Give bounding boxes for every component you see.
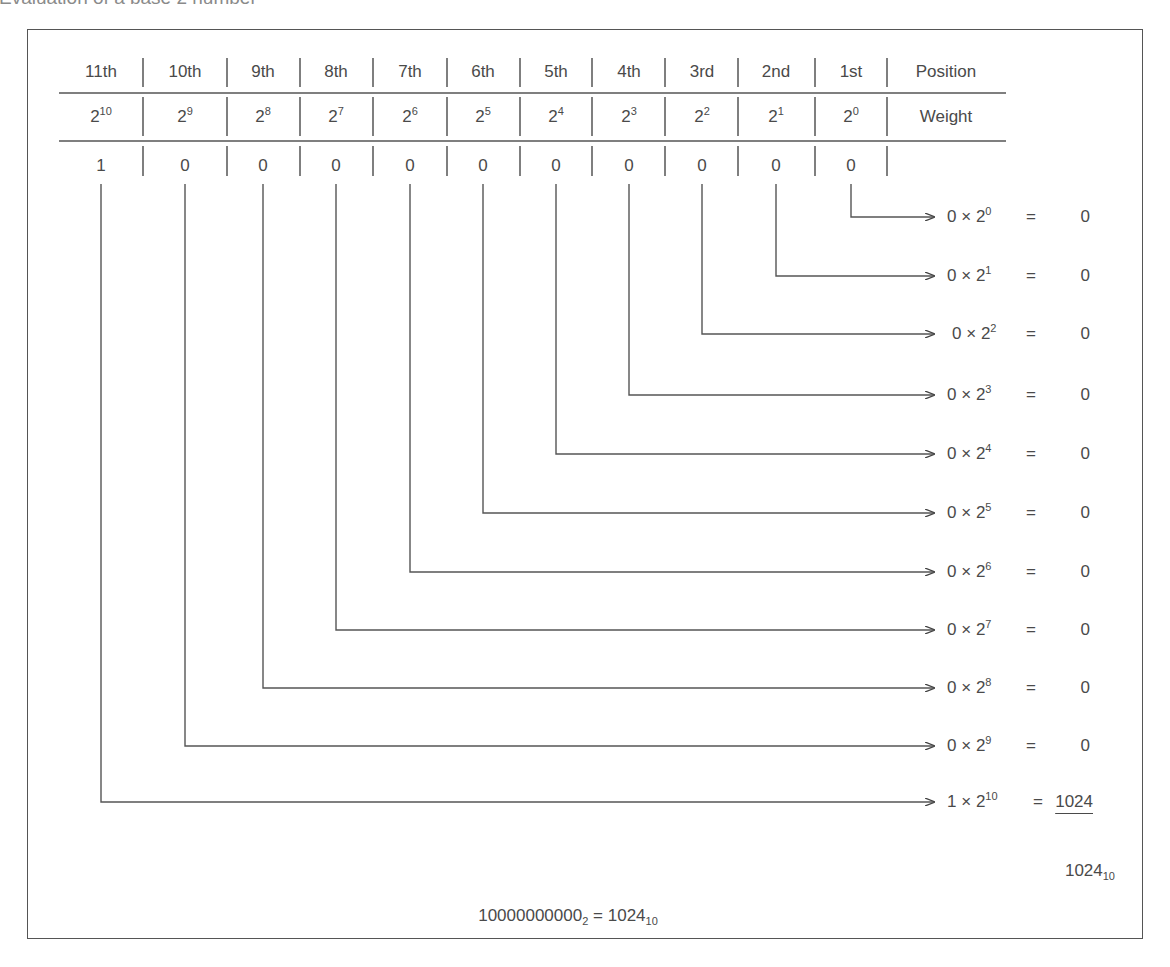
- product-term: 0 × 20: [947, 207, 991, 227]
- bit-value: 1: [96, 156, 105, 176]
- product-result-total: 1024: [1055, 792, 1093, 812]
- product-result: 0: [1081, 207, 1090, 227]
- position-label: 1st: [840, 62, 863, 82]
- product-term: 0 × 26: [947, 562, 991, 582]
- bit-value: 0: [624, 156, 633, 176]
- position-label: 9th: [251, 62, 275, 82]
- product-result: 0: [1081, 266, 1090, 286]
- weight-label: 27: [328, 107, 344, 127]
- equals-sign: =: [1026, 385, 1036, 405]
- position-label: 11th: [85, 62, 117, 82]
- weight-label: 26: [402, 107, 418, 127]
- weight-label: 210: [90, 107, 112, 127]
- product-term: 0 × 23: [947, 385, 991, 405]
- product-term: 0 × 29: [947, 736, 991, 756]
- product-term: 1 × 210: [947, 792, 998, 812]
- weight-label: 22: [694, 107, 710, 127]
- position-label: 3rd: [690, 62, 715, 82]
- weight-label: 21: [768, 107, 784, 127]
- equals-sign: =: [1026, 207, 1036, 227]
- conclusion-equation: 100000000002 = 102410: [478, 906, 658, 926]
- weight-label: 24: [548, 107, 564, 127]
- bit-value: 0: [180, 156, 189, 176]
- bit-value: 0: [331, 156, 340, 176]
- weight-label: 28: [255, 107, 271, 127]
- equals-sign: =: [1026, 266, 1036, 286]
- product-result: 0: [1081, 385, 1090, 405]
- weight-label: 23: [621, 107, 637, 127]
- weight-label: 25: [475, 107, 491, 127]
- equals-sign: =: [1026, 324, 1036, 344]
- product-result: 0: [1081, 444, 1090, 464]
- weight-label: 20: [843, 107, 859, 127]
- equals-sign: =: [1026, 678, 1036, 698]
- equals-sign: =: [1026, 444, 1036, 464]
- position-label: 6th: [471, 62, 495, 82]
- equals-sign: =: [1026, 503, 1036, 523]
- bit-value: 0: [478, 156, 487, 176]
- equals-sign: =: [1026, 736, 1036, 756]
- bit-value: 0: [405, 156, 414, 176]
- product-result: 0: [1081, 678, 1090, 698]
- bit-value: 0: [258, 156, 267, 176]
- position-label: 8th: [324, 62, 348, 82]
- weight-label: 29: [177, 107, 193, 127]
- product-term: 0 × 22: [952, 324, 996, 344]
- product-term: 0 × 28: [947, 678, 991, 698]
- equals-sign: =: [1026, 562, 1036, 582]
- product-result: 0: [1081, 503, 1090, 523]
- position-label: 4th: [617, 62, 641, 82]
- product-result: 0: [1081, 736, 1090, 756]
- product-term: 0 × 21: [947, 266, 991, 286]
- row-label-weight: Weight: [920, 107, 973, 127]
- position-label: 2nd: [762, 62, 790, 82]
- position-label: 5th: [544, 62, 568, 82]
- product-term: 0 × 25: [947, 503, 991, 523]
- bit-value: 0: [697, 156, 706, 176]
- position-label: 7th: [398, 62, 422, 82]
- product-term: 0 × 24: [947, 444, 991, 464]
- equals-sign: =: [1033, 792, 1043, 812]
- product-result: 0: [1081, 620, 1090, 640]
- bit-value: 0: [551, 156, 560, 176]
- position-label: 10th: [168, 62, 201, 82]
- sum-total: 102410: [1065, 861, 1115, 881]
- product-result: 0: [1081, 324, 1090, 344]
- equals-sign: =: [1026, 620, 1036, 640]
- row-label-position: Position: [916, 62, 976, 82]
- diagram-lines: [0, 0, 1170, 967]
- bit-value: 0: [771, 156, 780, 176]
- bit-value: 0: [846, 156, 855, 176]
- product-term: 0 × 27: [947, 620, 991, 640]
- product-result: 0: [1081, 562, 1090, 582]
